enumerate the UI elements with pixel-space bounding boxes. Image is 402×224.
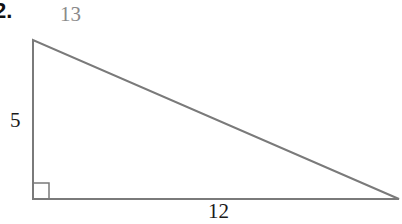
right-triangle-diagram <box>0 0 402 224</box>
triangle-shape <box>33 40 399 199</box>
right-angle-marker <box>33 183 49 199</box>
